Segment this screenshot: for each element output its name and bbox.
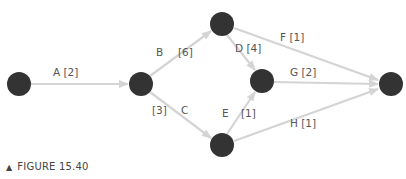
label-c: C [181, 104, 188, 116]
label-e-duration: [1] [241, 107, 256, 119]
node-6 [379, 72, 403, 96]
label-d: D [4] [235, 42, 261, 54]
label-h: H [1] [290, 117, 316, 129]
node-2 [129, 72, 153, 96]
triangle-marker-icon: ▲ [6, 163, 12, 172]
node-1 [7, 72, 31, 96]
label-b-duration: [6] [178, 46, 193, 58]
label-b: B [156, 46, 163, 58]
label-f: F [1] [280, 31, 304, 43]
edge-g [274, 82, 378, 84]
node-4 [250, 69, 274, 93]
node-5 [210, 133, 234, 157]
label-a: A [2] [53, 66, 78, 78]
label-g: G [2] [290, 66, 316, 78]
figure-caption: ▲FIGURE 15.40 [6, 161, 89, 172]
node-3 [210, 12, 234, 36]
network-diagram: A [2] B [6] [3] C D [4] E [1] F [1] G [2… [0, 0, 406, 179]
label-c-duration: [3] [152, 104, 167, 116]
label-e: E [222, 107, 229, 119]
caption-text: FIGURE 15.40 [17, 161, 88, 172]
